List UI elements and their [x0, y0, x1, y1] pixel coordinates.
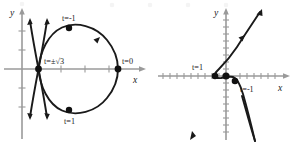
- right-y-axis-arrowhead: [223, 8, 229, 15]
- left-label-t-minus-one: t=-1: [62, 14, 76, 23]
- left-y-axis-arrowhead: [19, 8, 25, 15]
- right-label-t-one: t=1: [192, 63, 203, 72]
- right-parametric-s-curve-figure: t=1 t=-1 y x: [152, 0, 299, 145]
- right-point-t-minus-one: [232, 78, 239, 85]
- figure-page: t=-1 t=1 t=0 t=±√3 y x: [0, 0, 299, 145]
- right-y-axis-label: y: [213, 7, 219, 18]
- left-parametric-loop-figure: t=-1 t=1 t=0 t=±√3 y x: [0, 0, 152, 145]
- left-loop-direction-arrow: [94, 37, 101, 44]
- left-point-t-zero: [115, 66, 122, 73]
- left-branch-arrow-top-right: [44, 18, 49, 25]
- left-point-crossing: [35, 66, 42, 73]
- left-x-axis-label: x: [132, 74, 138, 85]
- right-x-axis-label: x: [277, 82, 283, 93]
- left-label-t-one: t=1: [64, 117, 75, 126]
- left-branch-arrow-bottom-left: [27, 113, 32, 120]
- left-branch-arrow-bottom-right: [44, 113, 49, 120]
- left-point-t-one: [66, 107, 72, 113]
- right-curve-direction-arrow: [239, 35, 246, 42]
- right-curve-arrow-bottom: [190, 131, 196, 140]
- left-y-axis-label: y: [9, 7, 15, 18]
- left-label-t-zero: t=0: [122, 57, 133, 66]
- right-point-t-one: [212, 73, 219, 80]
- left-label-t-plus-minus-root-three: t=±√3: [44, 57, 64, 66]
- right-point-origin: [222, 72, 229, 79]
- left-plot-canvas: t=-1 t=1 t=0 t=±√3 y x: [0, 0, 152, 145]
- right-x-axis-arrowhead: [283, 73, 290, 79]
- right-plot-canvas: t=1 t=-1 y x: [152, 0, 299, 145]
- right-curve-lower-tail: [242, 96, 255, 141]
- right-label-t-minus-one: t=-1: [240, 85, 254, 94]
- left-x-axis-arrowhead: [139, 66, 146, 72]
- left-branch-arrow-top-left: [27, 18, 32, 25]
- left-point-t-minus-one: [66, 25, 72, 31]
